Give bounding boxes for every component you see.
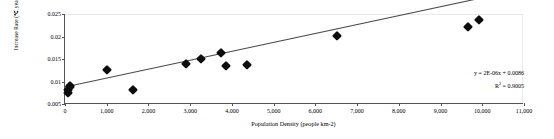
x-axis-title: Population Density (people km-2) xyxy=(64,120,523,127)
x-tick-mark xyxy=(399,103,400,106)
scatter-chart-figure: Increase Rate (℃ year-1) 0.0050.010.0150… xyxy=(0,0,554,139)
plot-area: 0.0050.010.0150.020.025 01,0002,0003,000… xyxy=(64,14,523,104)
r-squared-value: R2 = 0.9005 xyxy=(474,79,524,92)
x-axis-title-text: Population Density (people km-2) xyxy=(251,120,335,127)
x-tick-mark xyxy=(274,103,275,106)
x-tick-mark xyxy=(148,103,149,106)
x-tick-mark xyxy=(315,103,316,106)
y-axis-title-text: Increase Rate (℃ year-1) xyxy=(13,0,19,50)
y-tick-mark xyxy=(62,82,65,83)
x-tick-mark xyxy=(107,103,108,106)
x-tick-mark xyxy=(190,103,191,106)
regression-annotation: y = 2E-06x + 0.0086 R2 = 0.9005 xyxy=(474,68,524,91)
x-tick-mark xyxy=(65,103,66,106)
x-tick-mark xyxy=(482,103,483,106)
y-tick-mark xyxy=(62,14,65,15)
x-tick-mark xyxy=(441,103,442,106)
x-tick-mark xyxy=(232,103,233,106)
regression-equation: y = 2E-06x + 0.0086 xyxy=(474,68,524,79)
x-tick-mark xyxy=(357,103,358,106)
y-axis-title: Increase Rate (℃ year-1) xyxy=(13,0,19,63)
r-squared-number: = 0.9005 xyxy=(501,83,524,89)
x-tick-mark xyxy=(524,103,525,106)
y-tick-mark xyxy=(62,37,65,38)
y-tick-mark xyxy=(62,59,65,60)
